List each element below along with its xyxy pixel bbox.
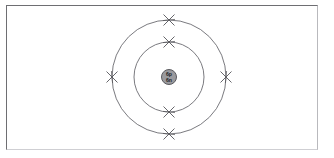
nucleus-neutrons-label: 6n — [166, 77, 172, 83]
atom-diagram: 6p 6n — [0, 0, 334, 158]
nucleus: 6p 6n — [162, 70, 177, 85]
figure-canvas: 6p 6n — [0, 0, 334, 158]
